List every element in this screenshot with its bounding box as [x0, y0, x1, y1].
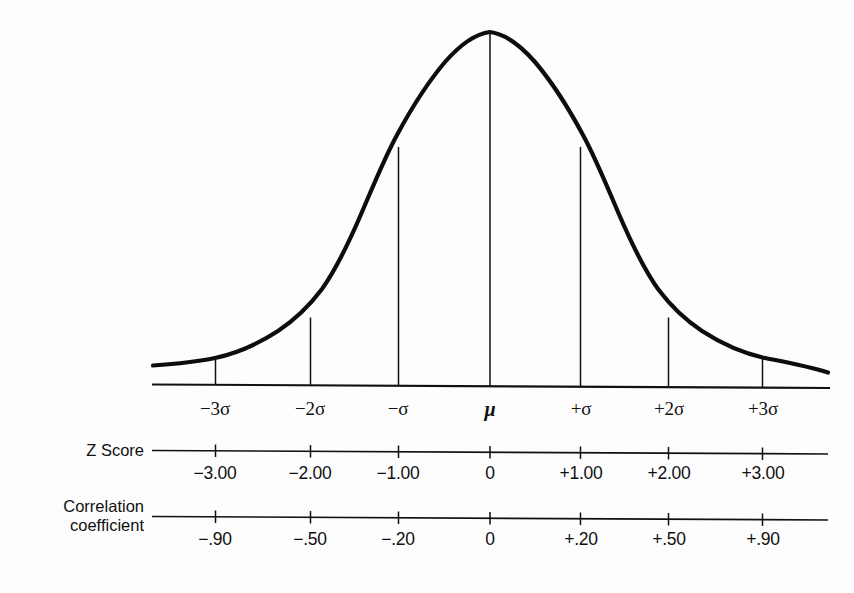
z-score-tick-label-minus-2: −2.00: [289, 463, 332, 484]
z-score-tick-label-minus-3: −3.00: [194, 463, 237, 484]
sigma-tick-label-plus-2: +2σ: [654, 398, 684, 420]
correlation-tick-label-minus-90: −.90: [198, 529, 231, 550]
z-score-tick-label-minus-1: −1.00: [377, 463, 420, 484]
z-score-tick-label-plus-3: +3.00: [742, 463, 785, 484]
sigma-tick-label-minus-2: −2σ: [295, 398, 325, 420]
sigma-tick-label-minus-3: −3σ: [200, 398, 230, 420]
correlation-tick-label-plus-90: +.90: [746, 529, 779, 550]
correlation-tick-label-plus-20: +.20: [564, 529, 597, 550]
z-score-row-label: Z Score: [8, 441, 144, 460]
sigma-tick-label-mean: μ: [484, 398, 495, 421]
sigma-tick-label-minus-1: −σ: [388, 398, 409, 420]
correlation-tick-label-plus-50: +.50: [652, 529, 685, 550]
z-score-tick-label-plus-2: +2.00: [648, 463, 691, 484]
z-score-tick-label-zero: 0: [485, 463, 494, 484]
correlation-tick-label-minus-20: −.20: [381, 529, 414, 550]
correlation-tick-label-minus-50: −.50: [293, 529, 326, 550]
correlation-row-label: Correlation coefficient: [8, 497, 144, 535]
sigma-tick-label-plus-1: +σ: [571, 398, 592, 420]
sigma-tick-label-plus-3: +3σ: [748, 398, 778, 420]
z-score-tick-label-plus-1: +1.00: [560, 463, 603, 484]
correlation-tick-label-zero: 0: [485, 529, 494, 550]
